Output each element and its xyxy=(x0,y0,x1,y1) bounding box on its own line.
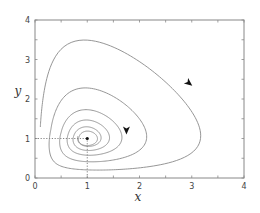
phase-portrait-chart: 01234 01234 x y xyxy=(0,0,260,213)
y-tick-label: 1 xyxy=(25,135,30,144)
x-axis-label: x xyxy=(135,190,142,204)
arrow-head-icon xyxy=(123,127,130,135)
x-tick-label: 0 xyxy=(32,182,37,191)
plot-frame xyxy=(35,20,244,178)
x-tick-label: 1 xyxy=(85,182,90,191)
equilibrium-point xyxy=(86,137,89,140)
y-tick-label: 3 xyxy=(25,56,30,65)
arrow-head-icon xyxy=(184,78,195,88)
direction-arrows xyxy=(123,78,195,135)
axis-ticks xyxy=(35,20,244,178)
equilibrium-guides xyxy=(35,139,87,179)
y-axis-label: y xyxy=(14,84,22,98)
x-tick-label: 3 xyxy=(189,182,194,191)
y-tick-label: 2 xyxy=(25,95,30,104)
y-tick-label: 0 xyxy=(25,174,30,183)
x-tick-label: 4 xyxy=(241,182,246,191)
y-tick-label: 4 xyxy=(25,16,30,25)
y-tick-labels: 01234 xyxy=(25,16,30,183)
trajectory-curve xyxy=(40,40,200,170)
